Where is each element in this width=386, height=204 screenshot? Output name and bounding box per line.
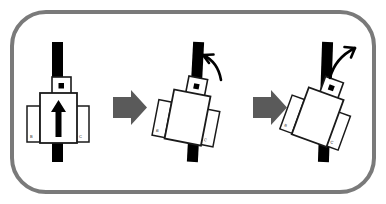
panel-1-sensor-module — [52, 77, 71, 94]
panel-1-label-c: C — [79, 134, 82, 139]
diagram-canvas: B C — [0, 0, 386, 204]
panel-1-side-module-b: B — [27, 106, 40, 142]
diagram-svg: B C — [0, 0, 386, 204]
panel-1-sensor-dot-icon — [59, 83, 65, 89]
panel-1-side-module-c: C — [76, 106, 89, 142]
panel-1-label-b: B — [30, 134, 33, 139]
panel-2-sensor-dot-icon — [193, 83, 199, 89]
